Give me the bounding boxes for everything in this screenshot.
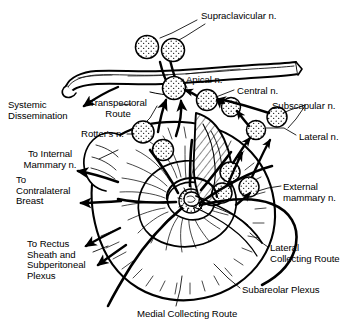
label-systemic-dissemination: Systemic Dissemination bbox=[8, 100, 68, 121]
supraclavicular-node-2 bbox=[162, 39, 185, 62]
label-rotters-n: Rotter's n. bbox=[81, 129, 124, 140]
label-to-rectus-sheath: To Rectus Sheath and Subperitoneal Plexu… bbox=[27, 239, 86, 281]
label-lateral-n: Lateral n. bbox=[299, 132, 339, 143]
label-to-contralateral-breast: To Contralateral Breast bbox=[16, 175, 70, 207]
central-node bbox=[197, 90, 218, 111]
lateral-node bbox=[247, 121, 266, 140]
supraclavicular-node-1 bbox=[136, 36, 159, 59]
label-medial-collecting-route: Medial Collecting Route bbox=[137, 309, 237, 320]
figure-canvas: Supraclavicular n. Apical n. Central n. … bbox=[0, 0, 356, 326]
label-central-n: Central n. bbox=[237, 86, 278, 97]
label-subareolar-plexus: Subareolar Plexus bbox=[242, 285, 320, 296]
lateral-to-infraclavicular-arrow bbox=[237, 111, 249, 126]
label-apical-n: Apical n. bbox=[186, 75, 222, 86]
label-external-mammary-n: External mammary n. bbox=[283, 182, 336, 203]
label-lateral-collecting-route: Lateral Collecting Route bbox=[270, 243, 340, 264]
label-subscapular-n: Subscapular n. bbox=[272, 101, 335, 112]
label-supraclavicular-n: Supraclavicular n. bbox=[201, 11, 276, 22]
label-transpectoral-route: Transpectoral Route bbox=[72, 98, 164, 119]
central-to-apical-arrow bbox=[185, 90, 197, 96]
apical-node bbox=[163, 77, 186, 100]
label-to-internal-mammary-n: To Internal Mammary n. bbox=[0, 149, 100, 170]
rotters-node bbox=[132, 121, 154, 143]
